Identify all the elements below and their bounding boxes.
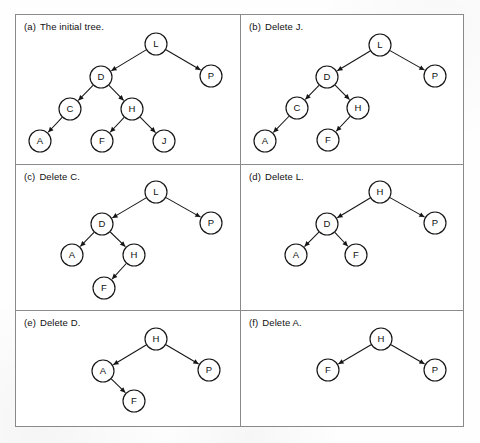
node-label: D bbox=[324, 218, 331, 229]
panel-c-tree: LDPAHF bbox=[16, 165, 240, 310]
tree-edge bbox=[111, 379, 125, 393]
node-label: P bbox=[432, 364, 438, 375]
tree-edge bbox=[80, 232, 94, 246]
node-label: D bbox=[98, 71, 105, 82]
node-label: H bbox=[131, 249, 138, 260]
node-label: A bbox=[37, 135, 44, 146]
tree-edge bbox=[109, 85, 124, 100]
tree-node-d: D bbox=[91, 213, 113, 235]
tree-node-p: P bbox=[200, 65, 222, 87]
node-label: H bbox=[129, 103, 136, 114]
tree-edge bbox=[304, 232, 318, 246]
tree-node-h: H bbox=[370, 328, 392, 350]
node-label: L bbox=[153, 38, 158, 49]
panel-d-tree: HDPAF bbox=[241, 165, 464, 310]
panel-b: (b)Delete J. LDPCHAF bbox=[241, 15, 464, 164]
node-label: P bbox=[208, 70, 214, 81]
tree-node-l: L bbox=[369, 34, 391, 56]
node-label: A bbox=[69, 249, 76, 260]
node-label: H bbox=[153, 333, 160, 344]
tree-edge bbox=[390, 198, 425, 217]
tree-edge bbox=[166, 50, 201, 70]
node-label: A bbox=[100, 365, 107, 376]
tree-node-d: D bbox=[90, 66, 112, 88]
tree-edge bbox=[335, 232, 348, 246]
tree-edge bbox=[110, 117, 124, 132]
figure-frame: (a)The initial tree. LDPCHAFJ (b)Delete … bbox=[15, 14, 464, 427]
node-label: A bbox=[262, 135, 269, 146]
tree-edge bbox=[338, 345, 371, 364]
tree-node-a: A bbox=[254, 130, 276, 152]
tree-node-a: A bbox=[29, 130, 51, 152]
node-label: P bbox=[432, 217, 438, 228]
tree-node-j: J bbox=[153, 130, 175, 152]
tree-node-f: F bbox=[317, 359, 339, 381]
tree-edge bbox=[335, 85, 349, 99]
tree-edge bbox=[140, 117, 155, 132]
tree-edge bbox=[305, 85, 319, 99]
tree-node-d: D bbox=[316, 66, 338, 88]
panel-d: (d)Delete L. HDPAF bbox=[241, 165, 464, 310]
tree-node-p: P bbox=[424, 65, 446, 87]
node-label: C bbox=[67, 103, 74, 114]
tree-node-c: C bbox=[286, 97, 308, 119]
tree-edge bbox=[112, 198, 146, 218]
tree-edge bbox=[273, 116, 289, 132]
tree-edge bbox=[391, 345, 425, 364]
tree-edge bbox=[166, 345, 199, 364]
panel-c: (c)Delete C. LDPAHF bbox=[16, 165, 240, 310]
panel-f-tree: HFP bbox=[241, 311, 464, 426]
panel-b-tree: LDPCHAF bbox=[241, 15, 464, 164]
tree-edge bbox=[337, 198, 370, 218]
tree-node-f: F bbox=[345, 244, 367, 266]
panel-a: (a)The initial tree. LDPCHAFJ bbox=[16, 15, 240, 164]
tree-node-f: F bbox=[317, 129, 339, 151]
tree-node-h: H bbox=[347, 97, 369, 119]
tree-node-f: F bbox=[91, 130, 113, 152]
tree-edge bbox=[390, 51, 425, 70]
tree-node-l: L bbox=[145, 181, 167, 203]
tree-edge bbox=[336, 116, 350, 131]
panel-e-tree: HAPF bbox=[16, 311, 240, 426]
tree-node-h: H bbox=[121, 98, 143, 120]
node-label: A bbox=[293, 249, 300, 260]
node-label: D bbox=[99, 218, 106, 229]
node-label: H bbox=[377, 186, 384, 197]
tree-node-p: P bbox=[200, 212, 222, 234]
tree-edge bbox=[112, 264, 126, 280]
tree-edge bbox=[78, 85, 93, 100]
node-label: P bbox=[208, 217, 214, 228]
tree-node-f: F bbox=[123, 390, 145, 412]
panel-e: (e)Delete D. HAPF bbox=[16, 311, 240, 426]
node-label: C bbox=[294, 102, 301, 113]
tree-node-c: C bbox=[59, 98, 81, 120]
tree-node-a: A bbox=[92, 360, 114, 382]
node-label: L bbox=[153, 186, 158, 197]
tree-node-p: P bbox=[424, 359, 446, 381]
tree-node-h: H bbox=[123, 244, 145, 266]
node-label: P bbox=[432, 70, 438, 81]
tree-node-p: P bbox=[424, 212, 446, 234]
node-label: H bbox=[378, 333, 385, 344]
node-label: H bbox=[355, 102, 362, 113]
tree-node-h: H bbox=[369, 181, 391, 203]
tree-node-d: D bbox=[316, 213, 338, 235]
tree-edge bbox=[48, 117, 62, 132]
panel-a-tree: LDPCHAFJ bbox=[16, 15, 240, 164]
tree-node-a: A bbox=[61, 244, 83, 266]
node-label: J bbox=[162, 135, 167, 146]
node-label: F bbox=[99, 135, 105, 146]
node-label: F bbox=[353, 249, 359, 260]
panel-f: (f)Delete A. HFP bbox=[241, 311, 464, 426]
tree-edge bbox=[113, 345, 146, 365]
tree-node-p: P bbox=[198, 359, 220, 381]
node-label: D bbox=[324, 71, 331, 82]
tree-node-a: A bbox=[285, 244, 307, 266]
tree-edge bbox=[337, 51, 370, 71]
tree-edge bbox=[166, 198, 201, 217]
node-label: F bbox=[325, 364, 331, 375]
tree-edge bbox=[111, 50, 146, 71]
tree-node-f: F bbox=[93, 277, 115, 299]
tree-node-h: H bbox=[145, 328, 167, 350]
node-label: P bbox=[206, 364, 212, 375]
